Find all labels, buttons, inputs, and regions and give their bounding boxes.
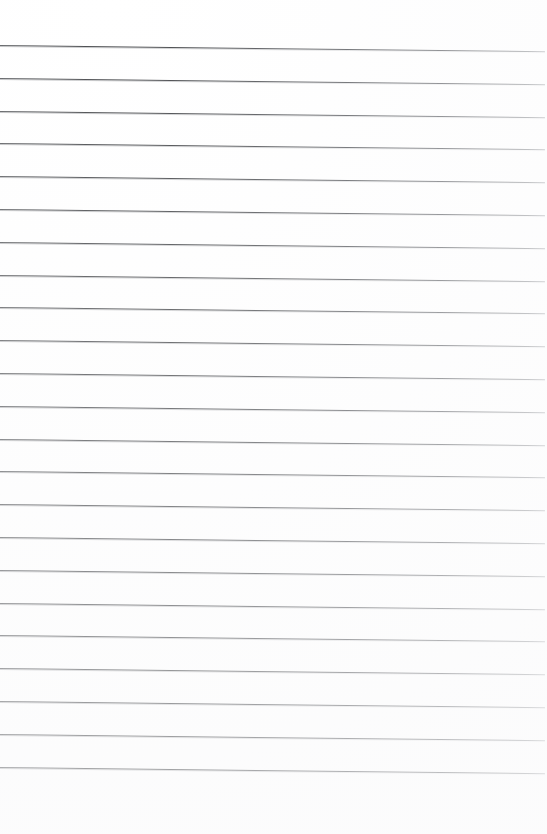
scanned-page — [0, 0, 547, 834]
paper-surface — [0, 0, 547, 834]
